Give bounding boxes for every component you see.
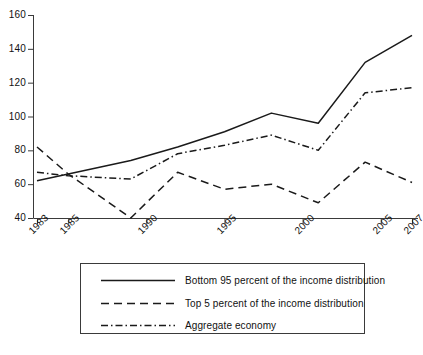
legend-item-top5: Top 5 percent of the income distribution <box>81 292 364 315</box>
legend-item-aggregate: Aggregate economy <box>81 314 364 337</box>
legend-item-bottom95: Bottom 95 percent of the income distribu… <box>81 269 364 292</box>
series-line-aggregate <box>37 88 412 179</box>
legend-swatch-dashed <box>99 292 177 315</box>
series-line-bottom95 <box>37 35 412 180</box>
legend-label-top5: Top 5 percent of the income distribution <box>185 298 364 309</box>
legend-swatch-dashdot <box>99 314 177 337</box>
y-tick-label: 120 <box>0 78 26 88</box>
series-line-top5 <box>37 147 412 218</box>
legend-label-bottom95: Bottom 95 percent of the income distribu… <box>185 275 385 286</box>
chart-legend: Bottom 95 percent of the income distribu… <box>80 263 365 334</box>
chart-axes <box>28 15 418 224</box>
y-tick-label: 80 <box>0 145 26 155</box>
y-tick-label: 100 <box>0 112 26 122</box>
line-chart: 406080100120140160 198319851990199520002… <box>0 0 423 355</box>
data-series-group <box>37 35 412 218</box>
y-tick-label: 160 <box>0 10 26 20</box>
legend-label-aggregate: Aggregate economy <box>185 320 276 331</box>
y-axis-ticks <box>28 16 34 219</box>
y-tick-label: 140 <box>0 44 26 54</box>
y-tick-label: 40 <box>0 213 26 223</box>
y-tick-label: 60 <box>0 179 26 189</box>
legend-swatch-solid <box>99 269 177 292</box>
